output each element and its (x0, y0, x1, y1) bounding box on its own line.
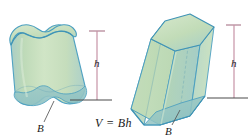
solid-hexagonal-prism (131, 14, 214, 125)
base-leader-line-left (44, 101, 54, 122)
base-label-right: B (165, 126, 172, 137)
volume-formula: V = Bh (95, 117, 132, 129)
height-label-left: h (94, 58, 100, 69)
figure-canvas: h h B B V = Bh (0, 0, 250, 140)
base-label-left: B (37, 123, 44, 134)
height-label-right: h (231, 58, 237, 69)
solid-oblique-cylinder (10, 25, 87, 122)
